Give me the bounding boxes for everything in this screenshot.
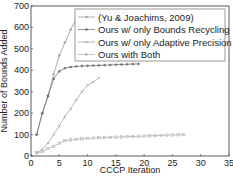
y-axis-label: Number of Bounds Added [0, 29, 9, 132]
x-tick-label: 10 [83, 158, 93, 168]
x-tick-label: 0 [28, 158, 33, 168]
legend-entry: Ours w/ only Adaptive Precision [98, 37, 232, 48]
legend: (Yu & Joachims, 2009)Ours w/ only Bounds… [75, 9, 232, 61]
series-line [35, 62, 140, 136]
series-line [35, 17, 78, 136]
y-tick-label: 700 [14, 1, 29, 11]
legend-entry: (Yu & Joachims, 2009) [98, 12, 194, 23]
x-tick-label: 25 [167, 158, 177, 168]
y-tick-label: 600 [14, 22, 29, 32]
y-tick-label: 100 [14, 130, 29, 140]
x-tick-label: 30 [196, 158, 206, 168]
series-line [35, 133, 184, 154]
series-line [35, 77, 100, 154]
x-tick-label: 5 [57, 158, 62, 168]
y-tick-label: 200 [14, 108, 29, 118]
y-tick-label: 400 [14, 65, 29, 75]
x-tick-label: 35 [224, 158, 233, 168]
y-tick-label: 300 [14, 87, 29, 97]
chart: 051015202530350100200300400500600700CCCP… [0, 0, 233, 176]
y-tick-label: 0 [24, 151, 29, 161]
line-chart: 051015202530350100200300400500600700CCCP… [0, 0, 233, 176]
y-tick-label: 500 [14, 44, 29, 54]
x-axis-label: CCCP Iteration [100, 165, 160, 175]
legend-entry: Ours w/ only Bounds Recycling [98, 24, 229, 35]
legend-entry: Ours with Both [98, 49, 160, 60]
